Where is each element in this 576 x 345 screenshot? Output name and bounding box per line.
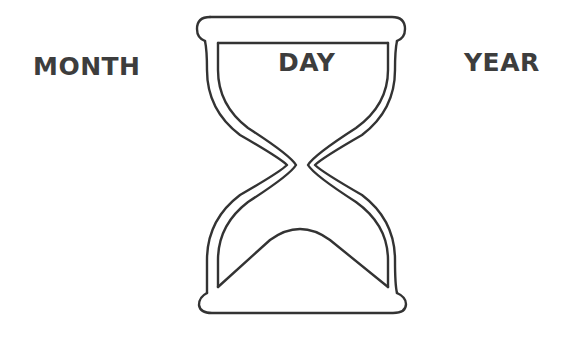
day-label: DAY xyxy=(278,50,335,75)
month-label: MONTH xyxy=(33,54,141,79)
year-label: YEAR xyxy=(464,50,540,75)
